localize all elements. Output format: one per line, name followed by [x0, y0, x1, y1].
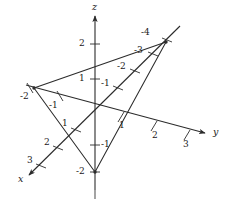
tick-label-x-neg3: -3 [134, 46, 143, 55]
tick-label-y-neg1: -1 [49, 101, 58, 110]
plot-canvas [0, 0, 226, 209]
axis-label-y: y [213, 127, 218, 137]
coordinate-plot-figure: z y x 2 1 -1 -2 1 2 3 -1 -2 1 2 3 -1 -2 … [0, 0, 226, 209]
axis-label-x: x [18, 174, 23, 184]
axis-label-z: z [92, 2, 97, 12]
tick-label-x-neg2: -2 [117, 62, 126, 71]
tick-label-z-neg2: -2 [76, 167, 85, 176]
tick-label-y-neg2: -2 [20, 92, 29, 101]
tick-label-z-2: 2 [79, 39, 85, 48]
tick-label-x-neg4: -4 [141, 28, 150, 37]
tick-label-z-1: 1 [79, 74, 85, 83]
tick-label-x-3: 3 [27, 156, 33, 165]
tick-label-x-neg1: -1 [101, 79, 110, 88]
tick-label-z-neg1: -1 [101, 140, 110, 149]
tick-label-x-1: 1 [62, 119, 68, 128]
tick-label-y-1: 1 [119, 121, 125, 130]
tick-label-y-2: 2 [152, 131, 158, 140]
tick-label-y-3: 3 [183, 140, 189, 149]
axis-y [26, 83, 205, 140]
tick-label-x-2: 2 [44, 138, 50, 147]
